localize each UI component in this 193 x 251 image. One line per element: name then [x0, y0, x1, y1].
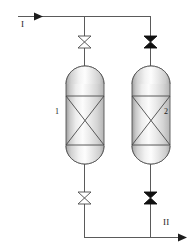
valve-bowtie-icon [78, 192, 91, 204]
vessel-2-bottom-cap [132, 146, 170, 164]
valve-top-left[interactable] [78, 36, 91, 48]
vessel-label-1: 1 [55, 108, 59, 116]
stream-label-inlet: I [21, 20, 24, 29]
vessel-2-top-cap [132, 66, 170, 84]
process-flow-diagram: I II 1 2 [0, 0, 193, 251]
flow-diagram-canvas [0, 0, 193, 251]
vessel-1-bottom-cap [66, 146, 104, 164]
arrow-right-icon-inlet [34, 13, 43, 21]
valve-bottom-right[interactable] [144, 192, 157, 204]
valve-bowtie-filled-icon [144, 36, 157, 48]
stream-label-outlet: II [163, 218, 170, 227]
valve-bottom-left[interactable] [78, 192, 91, 204]
arrow-right-icon-outlet [178, 234, 187, 242]
valve-bowtie-icon [78, 36, 91, 48]
valve-top-right[interactable] [144, 36, 157, 48]
vessel-1[interactable] [66, 66, 104, 164]
vessel-label-2: 2 [164, 108, 168, 116]
valve-bowtie-filled-icon [144, 192, 157, 204]
vessel-1-top-cap [66, 66, 104, 84]
